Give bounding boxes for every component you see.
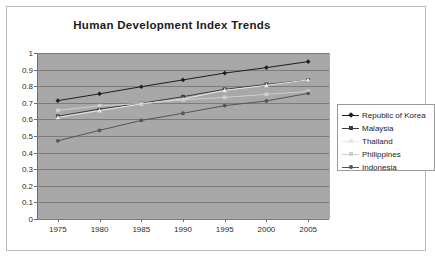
data-point (139, 118, 143, 122)
legend-label: Republic of Korea (362, 111, 426, 120)
x-axis-tick-label: 1990 (163, 225, 203, 234)
x-axis-tick-label: 1985 (121, 225, 161, 234)
chart-title: Human Development Index Trends (7, 19, 337, 31)
y-axis-tick-mark (34, 186, 37, 187)
y-axis-tick-label: 0.8 (0, 82, 33, 91)
data-point (56, 98, 61, 103)
x-axis-tick-mark (141, 219, 142, 222)
data-point (97, 92, 102, 97)
x-axis-tick-label: 2005 (288, 225, 328, 234)
legend-key-icon (342, 111, 359, 120)
legend-key-icon (342, 150, 359, 159)
y-axis-tick-label: 0.4 (0, 148, 33, 157)
legend-label: Philippines (362, 150, 401, 159)
y-axis-tick-mark (34, 86, 37, 87)
data-point (306, 91, 310, 95)
y-axis-tick-label: 0.5 (0, 132, 33, 141)
data-point (223, 95, 227, 99)
y-axis-tick-label: 0.9 (0, 65, 33, 74)
data-point (265, 92, 269, 96)
legend-item-malaysia[interactable]: Malaysia (342, 122, 432, 134)
x-axis-tick-mark (225, 219, 226, 222)
x-axis-tick-mark (100, 219, 101, 222)
series-philippines (56, 90, 310, 113)
legend-marker (349, 139, 353, 143)
data-point (306, 59, 311, 64)
x-axis-tick-mark (266, 219, 267, 222)
data-point (139, 102, 143, 106)
data-point (181, 111, 185, 115)
data-point (264, 65, 269, 70)
y-axis-tick-mark (34, 119, 37, 120)
x-axis-tick-mark (58, 219, 59, 222)
y-axis-tick-label: 0.2 (0, 181, 33, 190)
legend-marker (349, 126, 353, 130)
data-point (181, 78, 186, 83)
legend-item-indonesia[interactable]: Indonesia (342, 161, 432, 173)
legend-item-republic-of-korea[interactable]: Republic of Korea (342, 109, 432, 121)
legend-item-philippines[interactable]: Philippines (342, 148, 432, 160)
data-point (222, 71, 227, 76)
data-point (265, 99, 269, 103)
y-axis-tick-mark (34, 202, 37, 203)
legend-label: Malaysia (362, 124, 394, 133)
data-point (98, 128, 102, 132)
y-axis-tick-mark (34, 103, 37, 104)
x-axis-tick-label: 1995 (205, 225, 245, 234)
chart-frame: Human Development Index Trends 00.10.20.… (6, 6, 426, 251)
legend-marker (349, 165, 353, 169)
x-axis-tick-label: 2000 (246, 225, 286, 234)
y-axis-tick-mark (34, 219, 37, 220)
y-axis-tick-mark (34, 70, 37, 71)
y-axis-tick-label: 1 (0, 49, 33, 58)
data-point (56, 109, 60, 113)
legend-label: Thailand (362, 137, 393, 146)
data-point (223, 104, 227, 108)
x-axis-tick-label: 1975 (38, 225, 78, 234)
y-axis-tick-label: 0.6 (0, 115, 33, 124)
series-lines (37, 53, 329, 219)
legend-key-icon (342, 137, 359, 146)
data-point (56, 139, 60, 143)
y-axis-tick-label: 0.1 (0, 198, 33, 207)
legend-marker (349, 152, 353, 156)
chart-legend: Republic of KoreaMalaysiaThailandPhilipp… (337, 104, 435, 171)
legend-item-thailand[interactable]: Thailand (342, 135, 432, 147)
y-axis-tick-mark (34, 53, 37, 54)
legend-key-icon (342, 124, 359, 133)
data-point (181, 98, 185, 102)
x-axis-tick-mark (308, 219, 309, 222)
legend-key-icon (342, 163, 359, 172)
plot-area-wrapper: 00.10.20.30.40.50.60.70.80.91 1975198019… (37, 53, 329, 219)
y-axis-tick-label: 0 (0, 215, 33, 224)
y-axis-tick-label: 0.3 (0, 165, 33, 174)
data-point (139, 84, 144, 89)
x-axis-tick-label: 1980 (80, 225, 120, 234)
y-axis-tick-mark (34, 136, 37, 137)
y-axis-tick-label: 0.7 (0, 98, 33, 107)
y-axis-tick-mark (34, 169, 37, 170)
y-axis-tick-mark (34, 153, 37, 154)
legend-marker (348, 112, 354, 118)
data-point (98, 104, 102, 108)
x-axis-tick-mark (183, 219, 184, 222)
legend-label: Indonesia (362, 163, 397, 172)
